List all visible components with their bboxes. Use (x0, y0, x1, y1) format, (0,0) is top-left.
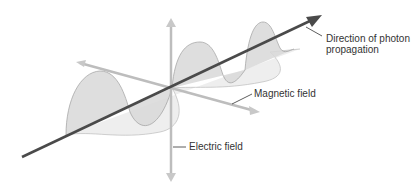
propagation-label-line1: Direction of photon (326, 33, 410, 44)
magnetic-field-label: Magnetic field (254, 88, 316, 99)
photon-diagram: Direction of photon propagation Magnetic… (0, 0, 417, 193)
electric-field-label: Electric field (189, 141, 243, 152)
em-wave-illustration (0, 0, 417, 193)
propagation-label: Direction of photon propagation (326, 33, 410, 55)
propagation-label-line2: propagation (326, 44, 410, 55)
magnetic-leader-line (232, 94, 252, 104)
propagation-leader-line (306, 27, 322, 36)
